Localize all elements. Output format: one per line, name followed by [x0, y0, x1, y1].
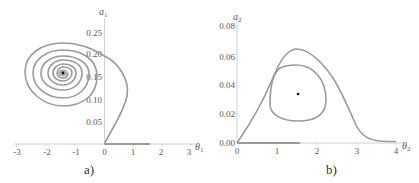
trajectory-a	[25, 43, 127, 144]
x-tick-label: 0	[235, 146, 240, 156]
y-tick-label: 0.25	[86, 28, 102, 38]
x-tick-label: 1	[275, 146, 280, 156]
equilibrium-point-b	[297, 93, 300, 96]
x-axis-label-a: θ1	[195, 141, 204, 154]
outer-trajectory-b	[237, 49, 396, 143]
y-tick-label: 0.05	[86, 117, 102, 127]
ticks-b	[235, 26, 396, 145]
x-tick-label: 4	[394, 146, 399, 156]
x-tick-label: 3	[355, 146, 360, 156]
x-tick-label: 2	[315, 146, 320, 156]
y-tick-label: 0.08	[219, 21, 235, 31]
chart-b: 0 1 2 3 4 0.00 0.02 0.04 0.06 0.08 a2 θ2…	[219, 11, 411, 177]
y-tick-label: 0.00	[219, 138, 235, 148]
y-tick-label: 0.06	[219, 52, 235, 62]
x-tick-label: 0	[102, 147, 107, 157]
x-tick-label: -2	[43, 147, 51, 157]
x-tick-label: 2	[159, 147, 164, 157]
x-tick-label: 3	[187, 147, 192, 157]
y-tick-label: 0.04	[219, 80, 235, 90]
chart-a: -3 -2 -1 0 1 2 3 0.05 0.10 0.15 0.20 0.2…	[13, 6, 204, 177]
y-axis-label-a: a1	[99, 6, 108, 19]
panel-label-b: b)	[326, 162, 337, 177]
x-axis-label-b: θ2	[402, 140, 411, 153]
equilibrium-point-a	[62, 72, 65, 75]
figure: -3 -2 -1 0 1 2 3 0.05 0.10 0.15 0.20 0.2…	[0, 0, 419, 183]
x-tick-label: -1	[72, 147, 80, 157]
x-tick-label: 1	[131, 147, 136, 157]
panel-label-a: a)	[84, 162, 94, 177]
x-tick-label: -3	[13, 147, 21, 157]
y-tick-label: 0.02	[219, 109, 235, 119]
